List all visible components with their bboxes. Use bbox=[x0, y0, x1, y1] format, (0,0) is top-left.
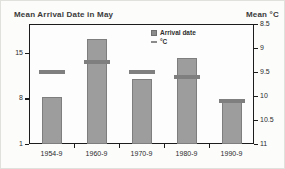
x-axis-category-label: 1960-9 bbox=[74, 150, 119, 157]
right-axis-tick bbox=[254, 144, 258, 146]
right-axis-tick bbox=[254, 72, 258, 74]
legend-item-temperature: °C bbox=[151, 37, 196, 46]
right-axis-tick-label: 11 bbox=[260, 140, 267, 147]
x-axis-tick bbox=[119, 144, 121, 148]
x-axis-category-label: 1990-9 bbox=[209, 150, 254, 157]
x-axis-category-label: 1970-9 bbox=[119, 150, 164, 157]
right-axis-tick-label: 9.5 bbox=[260, 68, 270, 75]
left-axis-tick bbox=[25, 144, 29, 146]
temperature-dash-marker bbox=[174, 75, 200, 79]
right-axis-tick-label: 9 bbox=[260, 44, 264, 51]
bar bbox=[132, 79, 152, 144]
bar bbox=[222, 99, 242, 144]
right-axis-tick bbox=[254, 24, 258, 26]
right-axis-tick bbox=[254, 48, 258, 50]
legend-label-temperature: °C bbox=[160, 37, 167, 46]
x-axis-category-label: 1954-9 bbox=[29, 150, 74, 157]
bar bbox=[177, 58, 197, 144]
temperature-dash-marker bbox=[84, 60, 110, 64]
temperature-dash-marker bbox=[39, 70, 65, 74]
bar bbox=[87, 39, 107, 144]
left-axis-tick-label: 15 bbox=[9, 49, 23, 56]
left-axis-tick bbox=[25, 53, 29, 55]
legend-label-arrival-date: Arrival date bbox=[160, 28, 196, 37]
temperature-dash-marker bbox=[219, 99, 245, 103]
left-axis-tick bbox=[25, 98, 29, 100]
temperature-dash-marker bbox=[129, 70, 155, 74]
legend-square-icon bbox=[151, 30, 157, 36]
right-axis-tick bbox=[254, 96, 258, 98]
x-axis-category-label: 1980-9 bbox=[164, 150, 209, 157]
right-axis-tick-label: 8.5 bbox=[260, 20, 270, 27]
right-axis-tick-label: 10.5 bbox=[260, 116, 274, 123]
arrival-date-chart: Mean Arrival Date in May Mean °C Arrival… bbox=[0, 0, 285, 169]
x-axis-tick bbox=[209, 144, 211, 148]
legend: Arrival date °C bbox=[151, 28, 196, 46]
left-axis-tick-label: 8 bbox=[9, 94, 23, 101]
chart-title: Mean Arrival Date in May bbox=[14, 10, 113, 19]
legend-dash-icon bbox=[151, 41, 157, 43]
left-axis-tick-label: 1 bbox=[9, 140, 23, 147]
x-axis-tick bbox=[164, 144, 166, 148]
right-axis-tick bbox=[254, 120, 258, 122]
legend-item-arrival-date: Arrival date bbox=[151, 28, 196, 37]
x-axis-tick bbox=[74, 144, 76, 148]
right-axis-tick-label: 10 bbox=[260, 92, 268, 99]
bar bbox=[42, 97, 62, 144]
right-axis-title: Mean °C bbox=[246, 10, 279, 19]
